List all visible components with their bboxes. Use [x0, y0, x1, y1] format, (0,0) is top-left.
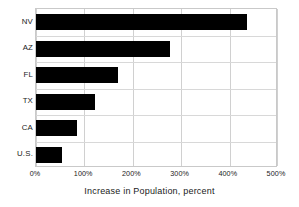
bar-chart: NVAZFLTXCAU.S. 0%100%200%300%400%500% In…	[0, 0, 299, 207]
x-tick-label: 300%	[170, 169, 189, 178]
x-tick-label: 0%	[30, 169, 41, 178]
bar-tx[interactable]	[36, 94, 95, 110]
category-label-nv: NV	[1, 17, 33, 26]
bar-row	[36, 62, 276, 89]
bar-nv[interactable]	[36, 14, 247, 30]
bar-az[interactable]	[36, 41, 170, 57]
bar-row	[36, 36, 276, 63]
gridline-vertical	[277, 9, 278, 166]
category-label-us: U.S.	[1, 149, 33, 158]
category-label-az: AZ	[1, 43, 33, 52]
bar-ca[interactable]	[36, 120, 77, 136]
x-axis-title: Increase in Population, percent	[0, 186, 299, 196]
bar-row	[36, 89, 276, 116]
bar-fl[interactable]	[36, 67, 118, 83]
bar-row	[36, 115, 276, 142]
x-tick-label: 200%	[122, 169, 141, 178]
value-axis-labels: 0%100%200%300%400%500%	[35, 169, 277, 181]
category-axis-labels: NVAZFLTXCAU.S.	[0, 8, 33, 167]
x-tick-label: 400%	[218, 169, 237, 178]
category-label-ca: CA	[1, 123, 33, 132]
x-tick-label: 500%	[267, 169, 286, 178]
x-tick-label: 100%	[74, 169, 93, 178]
plot-area	[35, 8, 277, 167]
bar-row	[36, 142, 276, 169]
category-label-tx: TX	[1, 96, 33, 105]
bar-row	[36, 9, 276, 36]
category-label-fl: FL	[1, 70, 33, 79]
bar-us[interactable]	[36, 147, 62, 163]
